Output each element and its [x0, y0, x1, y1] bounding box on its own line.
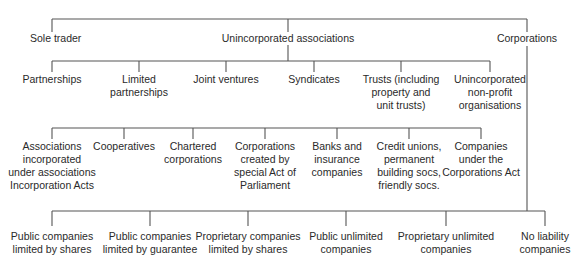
- node-proprietary-unlimited: Proprietary unlimited companies: [398, 230, 494, 256]
- node-proprietary-limited-shares: Proprietary companies limited by shares: [195, 230, 300, 256]
- node-partnerships: Partnerships: [23, 73, 82, 86]
- node-trusts: Trusts (including property and unit trus…: [363, 73, 440, 112]
- node-cooperatives: Cooperatives: [93, 140, 155, 153]
- node-joint-ventures: Joint ventures: [193, 73, 258, 86]
- node-special-act-corporations: Corporations created by special Act of P…: [234, 140, 296, 192]
- node-banks-insurance: Banks and insurance companies: [312, 140, 363, 179]
- node-syndicates: Syndicates: [288, 73, 339, 86]
- node-limited-partnerships: Limited partnerships: [110, 73, 168, 99]
- node-public-limited-guarantee: Public companies limited by guarantee: [103, 230, 198, 256]
- node-sole-trader: Sole trader: [30, 32, 81, 45]
- node-public-limited-shares: Public companies limited by shares: [11, 230, 93, 256]
- node-corporations-act-companies: Companies under the Corporations Act: [442, 140, 520, 179]
- node-public-unlimited: Public unlimited companies: [309, 230, 383, 256]
- node-credit-unions: Credit unions, permanent building socs, …: [377, 140, 442, 192]
- node-unincorporated-non-profit: Unincorporated non-profit organisations: [454, 73, 526, 112]
- node-corporations: Corporations: [495, 32, 559, 45]
- node-no-liability: No liability companies: [520, 230, 571, 256]
- node-associations-incorporated: Associations incorporated under associat…: [8, 140, 96, 192]
- node-unincorporated-associations: Unincorporated associations: [222, 32, 355, 45]
- node-chartered-corporations: Chartered corporations: [164, 140, 222, 166]
